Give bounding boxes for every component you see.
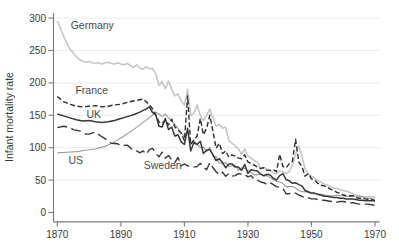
y-tick-label: 0 [40,207,46,218]
x-tick-label: 1970 [364,229,387,240]
series-lines [57,21,375,206]
x-tick-label: 1950 [300,229,323,240]
x-tick-label: 1930 [237,229,260,240]
x-tick-label: 1910 [173,229,196,240]
y-tick-label: 250 [29,45,46,56]
chart-canvas: 050100150200250300 187018901910193019501… [0,0,399,250]
gridlines [54,18,381,180]
y-tick-labels: 050100150200250300 [29,13,46,218]
x-tick-label: 1890 [110,229,133,240]
x-tick-label: 1870 [46,229,69,240]
y-tick-label: 300 [29,13,46,24]
series-line-uk [57,107,375,201]
y-tick-label: 100 [29,142,46,153]
series-label-france: France [75,84,108,96]
y-tick-label: 150 [29,110,46,121]
infant-mortality-chart: 050100150200250300 187018901910193019501… [0,0,399,250]
y-tick-label: 200 [29,77,46,88]
series-labels: GermanyUSSwedenFranceUK [68,19,181,172]
series-label-sweden: Sweden [144,159,182,171]
y-axis-title: Infant mortality rate [3,72,15,162]
series-label-uk: UK [87,108,102,120]
series-label-us: US [68,154,83,166]
series-label-germany: Germany [71,19,115,31]
y-tick-label: 50 [35,175,47,186]
x-tick-labels: 187018901910193019501970 [46,229,386,240]
series-line-sweden [57,126,375,205]
